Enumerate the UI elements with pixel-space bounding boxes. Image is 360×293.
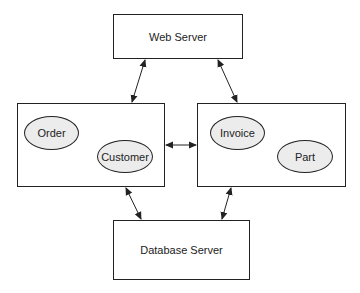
left-to-db-arrow — [126, 188, 141, 219]
right-to-db-arrow — [222, 188, 231, 219]
web-to-left-arrow — [132, 60, 145, 102]
web-to-right-arrow — [218, 60, 237, 102]
connector-arrows — [0, 0, 360, 293]
